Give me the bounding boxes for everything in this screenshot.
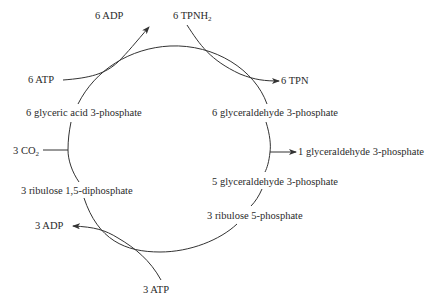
cycle-arc-bottom <box>84 198 237 252</box>
node-5-glyceraldehyde-3-phosphate: 5 glyceraldehyde 3-phosphate <box>212 177 338 188</box>
atp3-label: 3 ATP <box>143 285 169 296</box>
cycle-arc-right-lower <box>251 189 262 206</box>
node-ribulose-diphosphate: 3 ribulose 1,5-diphosphate <box>21 186 133 197</box>
cycle-arc-right-upper <box>265 122 270 172</box>
calvin-cycle-diagram: 6 ADP 6 TPNH2 6 ATP 6 TPN 6 glyceric aci… <box>0 0 448 304</box>
tpnh2-to-tpn-arrow <box>187 25 279 81</box>
tpnh2-subscript: 2 <box>208 15 212 23</box>
atp6-label: 6 ATP <box>28 75 54 86</box>
cycle-arc-top <box>78 46 267 104</box>
co2-text: 3 CO <box>13 145 35 156</box>
tpn6-label: 6 TPN <box>281 76 309 87</box>
co2-subscript: 2 <box>35 150 39 158</box>
adp3-label: 3 ADP <box>35 221 63 232</box>
node-6-glyceraldehyde-3-phosphate: 6 glyceraldehyde 3-phosphate <box>212 108 338 119</box>
node-ribulose-5-phosphate: 3 ribulose 5-phosphate <box>207 211 303 222</box>
atp6-to-adp6-arrow <box>63 27 149 80</box>
co2-label: 3 CO2 <box>13 146 39 157</box>
adp6-label: 6 ADP <box>95 11 123 22</box>
tpnh2-label: 6 TPNH2 <box>173 11 212 22</box>
atp3-to-adp3-arrow <box>73 226 161 280</box>
gap-output-label: 1 glyceraldehyde 3-phosphate <box>298 147 424 158</box>
tpnh2-text: 6 TPNH <box>173 10 208 21</box>
node-glyceric-acid-3-phosphate: 6 glyceric acid 3-phosphate <box>26 108 142 119</box>
cycle-arc-left <box>68 122 79 182</box>
